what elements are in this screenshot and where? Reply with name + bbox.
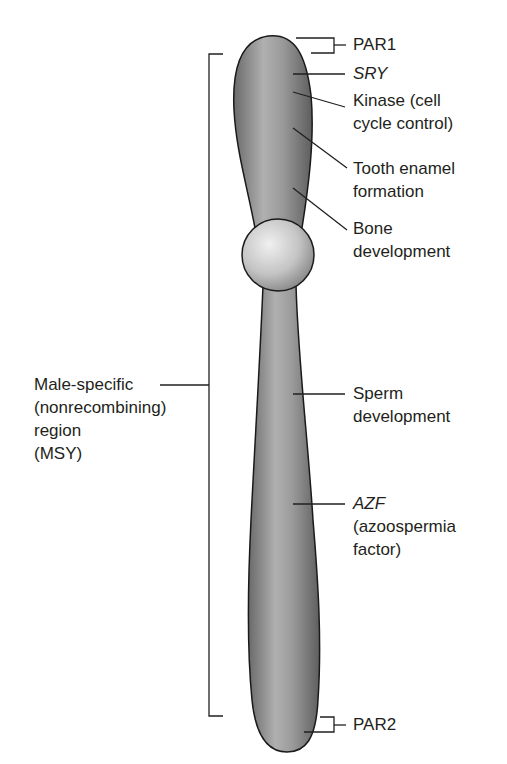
msy-bracket <box>160 54 223 716</box>
label-kinase-line1: Kinase (cell <box>353 90 441 111</box>
label-msy-line3: region <box>34 420 81 441</box>
label-sperm-line1: Sperm <box>353 383 403 404</box>
centromere <box>242 219 314 291</box>
label-azf-line2: (azoospermia <box>353 516 456 537</box>
label-kinase-line2: cycle control) <box>353 113 453 134</box>
short-arm-p <box>234 36 312 228</box>
label-msy-line1: Male-specific <box>34 374 133 395</box>
par1-bracket <box>296 38 346 53</box>
label-sperm-line2: development <box>353 406 450 427</box>
label-par1: PAR1 <box>353 34 396 55</box>
label-bone-line2: development <box>353 241 450 262</box>
label-tooth-line2: formation <box>353 181 424 202</box>
long-arm-q <box>249 285 320 752</box>
label-par2: PAR2 <box>353 714 396 735</box>
label-tooth-line1: Tooth enamel <box>353 158 455 179</box>
label-bone-line1: Bone <box>353 218 393 239</box>
label-msy-line2: (nonrecombining) <box>34 397 166 418</box>
label-msy-line4: (MSY) <box>34 443 82 464</box>
label-sry: SRY <box>353 63 387 84</box>
label-azf-line3: factor) <box>353 539 401 560</box>
label-azf-line1: AZF <box>353 493 385 514</box>
